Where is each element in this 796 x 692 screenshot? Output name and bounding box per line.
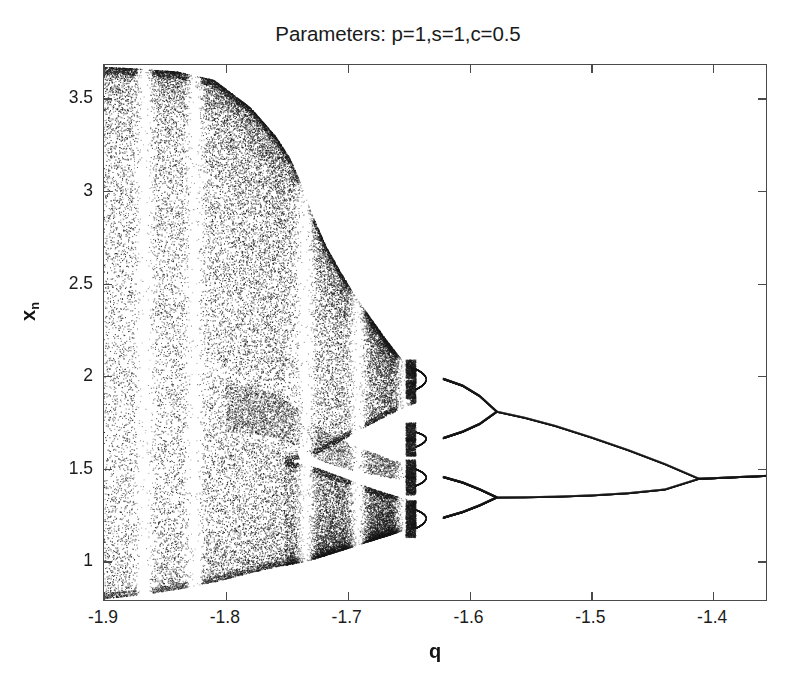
chart-title: Parameters: p=1,s=1,c=0.5 [0,22,796,46]
y-tick-mark-right [758,469,766,470]
x-axis-label: q [103,640,767,663]
x-tick-mark [226,592,227,600]
plot-area [103,64,767,601]
y-tick-mark-right [758,98,766,99]
x-tick-label: -1.5 [575,607,605,628]
x-tick-mark-top [348,65,349,73]
x-tick-mark [713,592,714,600]
x-tick-mark-top [713,65,714,73]
x-tick-mark [591,592,592,600]
x-tick-label: -1.7 [332,607,362,628]
y-tick-mark-right [758,561,766,562]
bifurcation-figure: Parameters: p=1,s=1,c=0.5 -1.9-1.8-1.7-1… [0,0,796,692]
x-tick-label: -1.4 [697,607,727,628]
x-tick-mark-top [470,65,471,73]
y-tick-label: 1.5 [69,457,93,478]
y-tick-mark-right [758,191,766,192]
y-axis-label: xn [17,282,40,342]
y-tick-mark-right [758,284,766,285]
x-tick-label: -1.6 [453,607,483,628]
x-tick-mark [104,592,105,600]
y-axis-label-base: x [17,310,39,321]
x-tick-mark-top [226,65,227,73]
y-tick-label: 3 [83,179,93,200]
x-tick-mark-top [104,65,105,73]
x-tick-label: -1.8 [210,607,240,628]
bifurcation-scatter-canvas [104,65,767,601]
x-tick-mark-top [591,65,592,73]
y-tick-mark-right [758,376,766,377]
y-tick-mark [104,284,112,285]
y-tick-mark [104,561,112,562]
y-tick-label: 3.5 [69,87,93,108]
y-tick-label: 2.5 [69,272,93,293]
y-tick-mark [104,191,112,192]
y-tick-label: 1 [83,550,93,571]
y-axis-tick-labels: 11.522.533.5 [0,0,93,692]
y-tick-mark [104,469,112,470]
x-tick-mark [470,592,471,600]
y-tick-mark [104,376,112,377]
y-tick-mark [104,98,112,99]
y-axis-label-subscript: n [26,302,41,310]
y-tick-label: 2 [83,365,93,386]
x-tick-mark [348,592,349,600]
